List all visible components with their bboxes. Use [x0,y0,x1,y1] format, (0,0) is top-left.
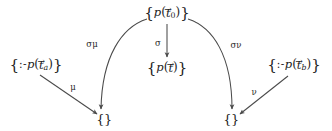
edge-label-sigma-nu: σν [231,41,242,50]
edge-nu-path [240,76,288,114]
vector-term: →t [168,62,173,74]
open-brace: { [147,59,157,77]
node-middle-goal-set: {p(→t)} [147,61,187,76]
node-left-query-set: {:-p(→ta)} [9,58,62,73]
vector-term: →t [297,59,302,71]
predicate-symbol: p [27,57,34,71]
vector-term: →t [166,7,171,19]
edge-label-sigma: σ [155,39,161,48]
node-top-goal-set: {p(→t0)} [144,6,189,21]
open-brace: { [144,4,154,22]
close-brace: } [311,56,321,74]
term-symbol: t [168,60,173,74]
node-bottom-left-empty-set: {} [96,113,112,126]
edge-mu-path [40,75,97,114]
open-brace: { [267,56,277,74]
vector-term: →t [39,59,44,71]
term-symbol: t [166,5,171,19]
close-brace: } [180,4,190,22]
close-brace: } [178,59,188,77]
edge-label-mu: μ [70,83,76,92]
commutative-diagram: {p(→t0)} {p(→t)} {:-p(→ta)} {:-p(→tb)} {… [0,0,332,131]
edge-sigma-mu-path [101,19,147,109]
predicate-symbol: p [154,5,161,19]
edge-label-sigma-mu: σμ [86,40,97,49]
predicate-symbol: p [156,60,163,74]
term-symbol: t [297,57,302,71]
edge-sigma-nu-path [188,19,232,109]
predicate-symbol: p [285,57,292,71]
node-right-query-set: {:-p(→tb)} [267,58,320,73]
close-brace: } [53,56,63,74]
term-symbol: t [39,57,44,71]
open-brace: { [9,56,19,74]
edge-label-nu: ν [251,88,256,97]
node-bottom-right-empty-set: {} [223,113,239,126]
